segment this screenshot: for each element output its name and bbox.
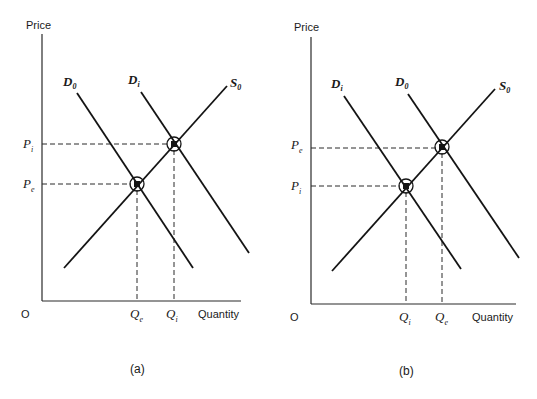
curve-label-s0: S0 xyxy=(499,78,510,95)
demand-curve-di xyxy=(344,96,461,269)
quantity-label-right: Qe xyxy=(435,309,448,327)
panel-b: Price O Quantity Di D0 S0 Pe Pi xyxy=(290,21,519,378)
curve-label-di: Di xyxy=(330,76,343,93)
curve-label-s0: S0 xyxy=(230,75,241,92)
equilibrium-marker-upper xyxy=(167,137,181,151)
price-label-lower: Pe xyxy=(22,176,35,194)
price-label-lower: Pi xyxy=(290,178,301,196)
x-axis-label: Quantity xyxy=(198,308,239,320)
panel-a: Price O Quantity D0 Di S0 Pi Pe xyxy=(21,19,249,376)
quantity-label-left: Qi xyxy=(399,309,411,327)
equilibrium-marker-upper xyxy=(435,140,449,154)
supply-demand-figure: Price O Quantity D0 Di S0 Pi Pe xyxy=(0,0,537,399)
equilibrium-marker-lower xyxy=(399,179,413,193)
price-label-upper: Pe xyxy=(290,137,303,155)
supply-curve-s0 xyxy=(64,86,227,268)
origin-label: O xyxy=(290,311,299,323)
panel-caption: (b) xyxy=(399,364,414,378)
supply-curve-s0 xyxy=(332,89,495,271)
curve-label-d0: D0 xyxy=(62,74,76,91)
y-axis-label: Price xyxy=(294,21,319,33)
curve-label-d0: D0 xyxy=(394,74,408,91)
x-axis-label: Quantity xyxy=(472,311,513,323)
demand-curve-d0 xyxy=(408,94,519,258)
price-label-upper: Pi xyxy=(22,136,33,154)
panel-caption: (a) xyxy=(130,362,145,376)
demand-curve-d0 xyxy=(77,93,193,268)
origin-label: O xyxy=(21,308,30,320)
equilibrium-marker-lower xyxy=(130,177,144,191)
curve-label-di: Di xyxy=(127,72,140,89)
demand-curve-di xyxy=(141,92,249,253)
quantity-label-left: Qe xyxy=(130,306,143,324)
quantity-label-right: Qi xyxy=(166,306,178,324)
y-axis-label: Price xyxy=(26,19,51,31)
